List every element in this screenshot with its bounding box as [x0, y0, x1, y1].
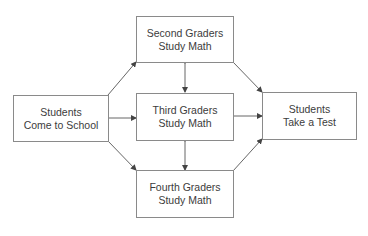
node-label-line1: Fourth Graders	[149, 181, 220, 194]
arrow-second-to-end	[233, 62, 262, 92]
node-label-line2: Study Math	[158, 194, 211, 207]
node-fourth-graders-study-math: Fourth Graders Study Math	[136, 170, 234, 218]
arrow-start-to-second	[108, 62, 136, 95]
node-label-line2: Come to School	[24, 119, 99, 132]
node-label-line1: Students	[289, 103, 330, 116]
node-second-graders-study-math: Second Graders Study Math	[136, 16, 234, 63]
node-label-line2: Study Math	[158, 40, 211, 53]
node-label-line1: Second Graders	[147, 27, 223, 40]
arrow-start-to-fourth	[108, 141, 136, 170]
node-students-take-a-test: Students Take a Test	[262, 92, 357, 140]
node-label-line1: Students	[40, 106, 81, 119]
node-students-come-to-school: Students Come to School	[13, 95, 109, 142]
node-label-line1: Third Graders	[153, 104, 218, 117]
flowchart-diagram: Students Come to School Second Graders S…	[0, 0, 368, 236]
node-label-line2: Study Math	[158, 117, 211, 130]
node-third-graders-study-math: Third Graders Study Math	[136, 93, 234, 141]
node-label-line2: Take a Test	[283, 116, 336, 129]
arrow-fourth-to-end	[233, 139, 262, 171]
